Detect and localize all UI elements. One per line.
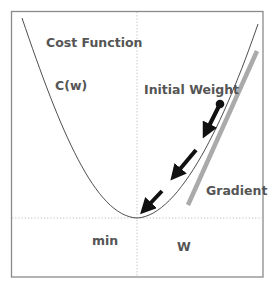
cost-symbol-label: C(w) — [55, 80, 87, 93]
cost-function-label: Cost Function — [46, 37, 142, 50]
weight-axis-label: W — [177, 241, 191, 254]
min-label: min — [92, 235, 118, 248]
gradient-descent-diagram: Cost Function C(w) Initial Weight Gradie… — [0, 0, 272, 287]
initial-weight-point-icon — [216, 100, 225, 109]
initial-weight-label: Initial Weight — [144, 84, 239, 97]
gradient-label: Gradient — [206, 185, 267, 198]
